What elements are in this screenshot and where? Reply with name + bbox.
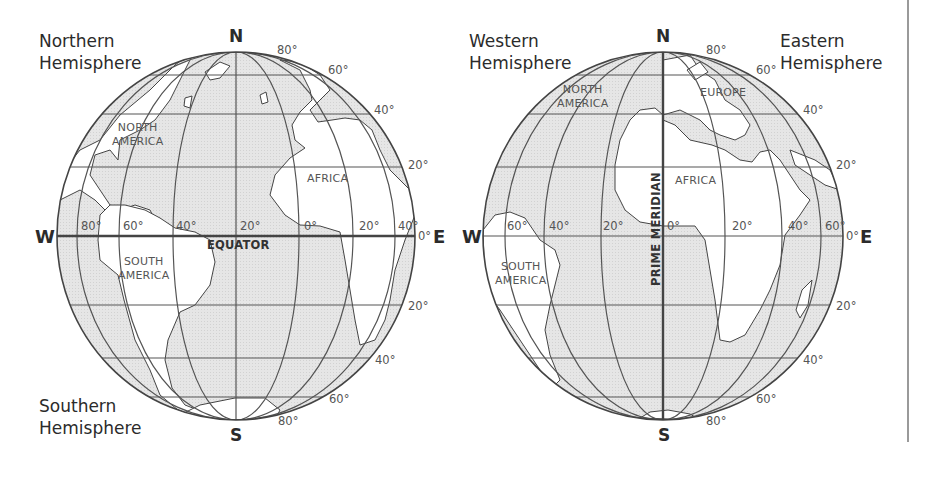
north-label: N [229, 26, 243, 46]
longitude-label: 40° [176, 219, 196, 233]
latitude-label: 60° [328, 63, 348, 77]
label-line: Hemisphere [780, 52, 882, 74]
label-line: Hemisphere [469, 52, 571, 74]
latitude-label: 40° [374, 103, 394, 117]
eastern-hemisphere-label: Eastern Hemisphere [780, 30, 882, 74]
europe-label: EUROPE [700, 86, 746, 100]
west-label: W [462, 226, 482, 247]
longitude-label: 20° [359, 219, 379, 233]
label-line: AMERICA [557, 97, 608, 111]
latitude-label: 40° [803, 103, 823, 117]
right-globe [470, 52, 860, 420]
label-line: Northern [39, 30, 141, 52]
latitude-label: 60° [329, 392, 349, 406]
label-line: Eastern [780, 30, 882, 52]
east-label: E [433, 226, 445, 247]
east-label: E [860, 226, 872, 247]
longitude-label: 80° [81, 219, 101, 233]
latitude-label: 40° [375, 353, 395, 367]
east-zero-degree: 0° [418, 229, 431, 243]
longitude-label: 40° [549, 219, 569, 233]
label-line: NORTH [557, 83, 608, 97]
south-label: S [230, 425, 242, 445]
equator-label: EQUATOR [207, 238, 270, 252]
latitude-label: 20° [836, 158, 856, 172]
latitude-label: 20° [408, 158, 428, 172]
longitude-label: 0° [667, 219, 680, 233]
latitude-label: 40° [803, 353, 823, 367]
label-line: Southern [39, 395, 141, 417]
latitude-label: 60° [756, 392, 776, 406]
latitude-label: 60° [756, 63, 776, 77]
label-line: Hemisphere [39, 52, 141, 74]
label-line: Western [469, 30, 571, 52]
longitude-label: 40° [788, 219, 808, 233]
west-label: W [35, 226, 55, 247]
label-line: AMERICA [495, 274, 546, 288]
east-zero-degree: 0° [846, 229, 859, 243]
divider-line [907, 0, 909, 442]
north-label: N [656, 26, 670, 46]
western-hemisphere-label: Western Hemisphere [469, 30, 571, 74]
label-line: Hemisphere [39, 417, 141, 439]
longitude-label: 20° [240, 219, 260, 233]
longitude-label: 20° [732, 219, 752, 233]
latitude-label: 80° [278, 414, 298, 428]
latitude-label: 80° [706, 43, 726, 57]
label-line: NORTH [112, 121, 163, 135]
longitude-label: 60° [507, 219, 527, 233]
north-america-label: NORTH AMERICA [557, 83, 608, 111]
northern-hemisphere-label: Northern Hemisphere [39, 30, 141, 74]
southern-hemisphere-label: Southern Hemisphere [39, 395, 141, 439]
south-america-label: SOUTH AMERICA [495, 260, 546, 288]
longitude-label: 20° [603, 219, 623, 233]
africa-label: AFRICA [675, 174, 716, 188]
south-label: S [658, 425, 670, 445]
africa-label: AFRICA [307, 172, 348, 186]
prime-meridian-label: PRIME MERIDIAN [649, 172, 663, 286]
longitude-label: 60° [123, 219, 143, 233]
label-line: AMERICA [112, 135, 163, 149]
longitude-label: 40° [398, 219, 418, 233]
label-line: SOUTH [495, 260, 546, 274]
north-america-label: NORTH AMERICA [112, 121, 163, 149]
longitude-label: 0° [304, 219, 317, 233]
label-line: AMERICA [118, 269, 169, 283]
label-line: SOUTH [118, 255, 169, 269]
south-america-label: SOUTH AMERICA [118, 255, 169, 283]
left-globe [40, 50, 430, 420]
latitude-label: 80° [706, 414, 726, 428]
latitude-label: 80° [277, 43, 297, 57]
longitude-label: 60° [825, 219, 845, 233]
latitude-label: 20° [408, 299, 428, 313]
latitude-label: 20° [836, 299, 856, 313]
